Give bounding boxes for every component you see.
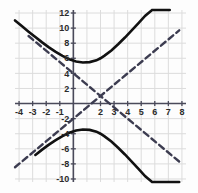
x-tick-label: 3 [112, 107, 117, 117]
y-tick-label: 6 [64, 53, 69, 63]
hyperbola-graph: -4-3-2-1234567812108642-2-4-6-8-10 [0, 0, 198, 193]
y-tick-label: 4 [64, 69, 69, 79]
y-tick-label: 8 [64, 38, 69, 48]
x-tick-label: 6 [152, 107, 157, 117]
x-tick-label: 5 [139, 107, 144, 117]
y-tick-label: -8 [61, 159, 69, 169]
x-tick-label: 7 [166, 107, 171, 117]
y-tick-label: -10 [56, 174, 69, 184]
y-tick-label: -2 [61, 114, 69, 124]
x-tick-label: 4 [125, 107, 130, 117]
y-tick-label: 2 [64, 84, 69, 94]
chart-container: -4-3-2-1234567812108642-2-4-6-8-10 [0, 0, 198, 193]
x-tick-label: 8 [179, 107, 184, 117]
x-tick-label: -2 [42, 107, 50, 117]
x-tick-label: 2 [98, 107, 103, 117]
y-tick-label: -6 [61, 144, 69, 154]
x-tick-label: -4 [15, 107, 23, 117]
x-tick-label: -3 [29, 107, 37, 117]
y-tick-label: 12 [59, 8, 69, 18]
y-tick-label: -4 [61, 129, 69, 139]
y-tick-label: 10 [59, 23, 69, 33]
